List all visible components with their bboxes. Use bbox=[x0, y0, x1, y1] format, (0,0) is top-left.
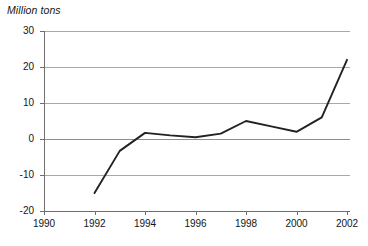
x-axis-tick-label: 1990 bbox=[22, 218, 66, 229]
y-axis-tick-label: -20 bbox=[4, 205, 34, 216]
data-series-line bbox=[95, 60, 348, 193]
x-axis-tick-label: 2000 bbox=[275, 218, 319, 229]
y-axis-tick-label: 30 bbox=[4, 25, 34, 36]
x-axis-tick-label: 1994 bbox=[123, 218, 167, 229]
y-axis-tick-label: 20 bbox=[4, 61, 34, 72]
x-axis-tick-label: 1992 bbox=[73, 218, 117, 229]
x-axis-tick-label: 1998 bbox=[224, 218, 268, 229]
y-axis-ticks-group bbox=[40, 32, 44, 212]
gridlines-group bbox=[44, 32, 350, 176]
x-axis-tick-label: 2002 bbox=[325, 218, 368, 229]
y-axis-tick-label: 10 bbox=[4, 97, 34, 108]
chart-plot-area bbox=[0, 0, 368, 246]
y-axis-tick-label: -10 bbox=[4, 169, 34, 180]
y-axis-tick-label: 0 bbox=[4, 133, 34, 144]
chart-container: Million tons 3020100-10-20 1990199219941… bbox=[0, 0, 368, 246]
x-axis-tick-label: 1996 bbox=[174, 218, 218, 229]
